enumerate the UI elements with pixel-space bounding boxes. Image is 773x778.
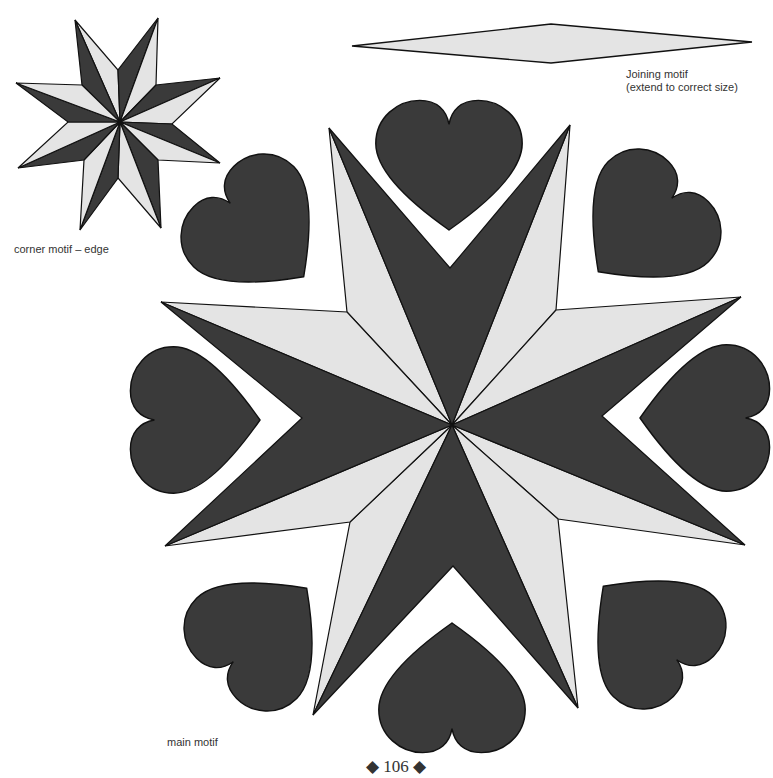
pattern-sheet: [0, 0, 773, 778]
joining-motif: [352, 24, 752, 63]
corner-motif-label: corner motif – edge: [14, 243, 109, 256]
main-motif-label: main motif: [167, 736, 218, 749]
joining-motif-label: Joining motif: [626, 68, 688, 81]
page-number: ◆ 106 ◆: [366, 756, 426, 777]
heart-top-right: [548, 132, 738, 322]
heart-bottom: [379, 623, 525, 753]
heart-bottom-right: [553, 536, 743, 726]
heart-top-left: [164, 137, 354, 327]
joining-motif-sublabel: (extend to correct size): [626, 81, 738, 94]
corner-motif: [16, 18, 220, 230]
heart-left: [130, 347, 260, 493]
